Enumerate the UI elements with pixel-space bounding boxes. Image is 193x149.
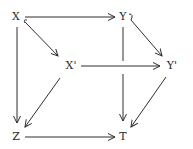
diagram-arrows xyxy=(0,0,193,149)
arrow-yprime-to-t xyxy=(131,77,166,127)
node-t: T xyxy=(119,131,126,143)
node-z: Z xyxy=(12,131,20,143)
node-y-prime: Y' xyxy=(167,60,177,72)
hook-y-to-yprime xyxy=(129,14,132,20)
arrow-xprime-to-z xyxy=(25,78,60,127)
node-x-prime: X' xyxy=(66,60,77,72)
node-x: X xyxy=(12,11,20,23)
arrow-y-to-yprime xyxy=(131,20,162,56)
arrow-x-to-xprime xyxy=(25,22,58,56)
node-y: Y xyxy=(119,11,126,23)
commutative-diagram: X Y X' Y' Z T xyxy=(0,0,193,149)
